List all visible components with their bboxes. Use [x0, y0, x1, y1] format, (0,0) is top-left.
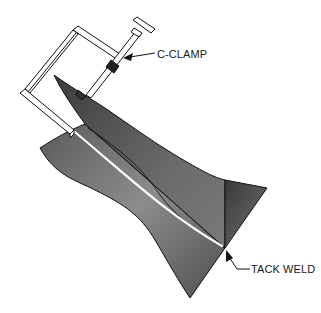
tack-weld-leader: [226, 250, 250, 269]
end-face: [225, 180, 267, 248]
c-clamp-label: C-CLAMP: [157, 48, 207, 60]
c-clamp-leader: [123, 53, 155, 61]
tack-weld-label: TACK WELD: [251, 263, 315, 275]
weld-diagram: C-CLAMP TACK WELD: [0, 0, 321, 313]
